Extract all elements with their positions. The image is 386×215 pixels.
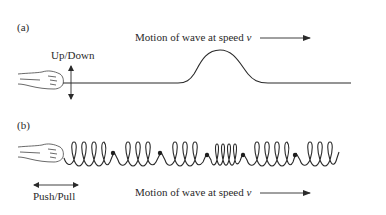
hand-icon-b (18, 144, 63, 162)
hand-icon-a (18, 71, 63, 89)
spring-dot-5 (293, 153, 297, 157)
spring-dot-4 (241, 153, 245, 157)
spring-dot-3 (205, 153, 209, 157)
spring-dot-1 (111, 151, 115, 155)
diagram-canvas (0, 0, 386, 215)
spring-coil (64, 142, 339, 166)
rope-pulse-wave (63, 50, 351, 83)
spring-dot-2 (158, 151, 162, 155)
